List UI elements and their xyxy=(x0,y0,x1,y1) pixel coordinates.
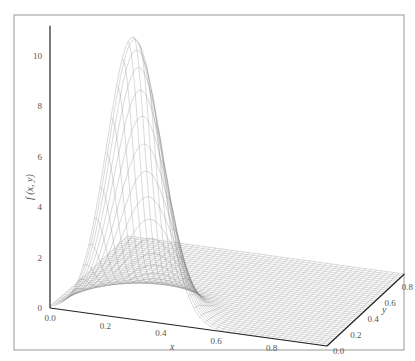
axes xyxy=(50,26,404,346)
y-tick: 0.4 xyxy=(367,314,379,324)
z-tick: 8 xyxy=(38,101,43,111)
tick-labels: 02468100.00.20.40.60.80.00.20.40.60.8 xyxy=(33,51,414,356)
plot-frame xyxy=(14,15,404,350)
x-tick: 0.0 xyxy=(44,313,56,323)
x-axis-label: x xyxy=(169,341,175,352)
surface-plot: 02468100.00.20.40.60.80.00.20.40.60.8 x … xyxy=(0,0,415,361)
x-tick: 0.4 xyxy=(155,328,167,338)
x-tick: 0.6 xyxy=(211,336,223,346)
y-tick: 0.2 xyxy=(350,330,361,340)
x-tick: 0.2 xyxy=(100,321,111,331)
z-tick: 10 xyxy=(33,51,43,61)
y-axis-label: y xyxy=(381,304,387,315)
z-tick: 6 xyxy=(38,152,43,162)
z-tick: 0 xyxy=(38,303,43,313)
surface-mesh xyxy=(50,37,404,346)
z-axis-label: f (x, y) xyxy=(24,174,36,200)
y-tick: 0.8 xyxy=(402,282,414,292)
y-tick: 0.0 xyxy=(333,346,345,356)
z-tick: 4 xyxy=(38,202,43,212)
x-tick: 0.8 xyxy=(266,343,278,353)
z-tick: 2 xyxy=(38,253,43,263)
